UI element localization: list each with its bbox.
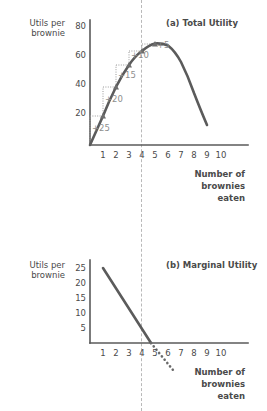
x-tick-2: 2	[113, 348, 118, 358]
y-tick-20: 20	[75, 108, 86, 118]
y-tick-15: 15	[75, 293, 86, 303]
x-axis-label-line2: brownies	[201, 379, 245, 389]
x-axis-label-line3: eaten	[218, 391, 245, 401]
y-tick-10: 10	[75, 308, 86, 318]
y-tick-80: 80	[75, 21, 86, 31]
annotation-plus-20: +20	[105, 94, 123, 104]
x-tick-9: 9	[204, 348, 209, 358]
x-tick-2: 2	[113, 150, 118, 160]
x-tick-6: 6	[165, 150, 170, 160]
x-axis-label-line2: brownies	[201, 181, 245, 191]
y-axis-label-line2: brownie	[31, 28, 65, 38]
x-axis-label-line1: Number of	[194, 367, 245, 377]
y-tick-60: 60	[75, 50, 86, 60]
y-axis-label-line1: Utils per	[29, 260, 65, 270]
x-tick-8: 8	[191, 348, 196, 358]
total-utility-svg: Utils per brownie (a) Total Utility 80 6…	[0, 0, 267, 205]
x-axis-label-line1: Number of	[194, 169, 245, 179]
x-tick-3: 3	[126, 150, 131, 160]
y-tick-25: 25	[75, 263, 86, 273]
y-axis-label-line1: Utils per	[29, 18, 65, 28]
x-tick-8: 8	[191, 150, 196, 160]
x-tick-1: 1	[100, 348, 105, 358]
x-tick-7: 7	[178, 150, 183, 160]
x-tick-5: 5	[152, 348, 157, 358]
y-tick-5: 5	[81, 323, 86, 333]
x-axis-label-line3: eaten	[218, 193, 245, 203]
x-tick-9: 9	[204, 150, 209, 160]
y-axis-label-line2: brownie	[31, 270, 65, 280]
y-tick-40: 40	[75, 79, 86, 89]
annotation-plus-25: +25	[92, 123, 110, 133]
x-tick-1: 1	[100, 150, 105, 160]
x-tick-4: 4	[139, 150, 144, 160]
x-tick-4: 4	[139, 348, 144, 358]
annotation-plus-10: +10	[131, 50, 149, 60]
x-tick-10: 10	[216, 150, 227, 160]
panel-title: (b) Marginal Utility	[166, 260, 258, 270]
panel-title: (a) Total Utility	[166, 18, 238, 28]
y-tick-20: 20	[75, 278, 86, 288]
x-tick-10: 10	[216, 348, 227, 358]
x-tick-6: 6	[165, 348, 170, 358]
marginal-utility-svg: Utils per brownie (b) Marginal Utility 2…	[0, 205, 267, 411]
x-tick-3: 3	[126, 348, 131, 358]
chart-panel-total-utility: Utils per brownie (a) Total Utility 80 6…	[0, 0, 267, 205]
x-tick-7: 7	[178, 348, 183, 358]
chart-panel-marginal-utility: Utils per brownie (b) Marginal Utility 2…	[0, 205, 267, 411]
x-tick-5: 5	[152, 150, 157, 160]
marginal-utility-line	[103, 268, 151, 343]
annotation-plus-15: +15	[118, 70, 136, 80]
annotation-plus-5: +5	[157, 40, 170, 50]
